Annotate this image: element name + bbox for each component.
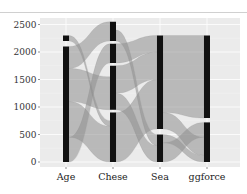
y-tick-label: 500 [19,130,36,140]
x-axis: AgeCheseSeaggforce [56,167,226,182]
x-category-label: Age [56,171,76,182]
y-tick-label: 1000 [14,102,37,112]
stratum-box [110,113,116,163]
stratum-box [204,122,210,162]
alluvium-flows [69,22,204,162]
y-tick-label: 2000 [14,47,37,57]
stratum-box [157,36,163,130]
stratum-box [110,66,116,110]
stratum-box [110,22,116,41]
x-category-label: ggforce [189,171,226,182]
y-tick-label: 0 [31,157,37,167]
y-axis: 05001000150020002500 [14,20,40,168]
y-tick-label: 1500 [14,75,37,85]
x-category-label: Chese [98,171,128,182]
stratum-box [157,135,163,163]
stratum-box [63,47,69,163]
flow-band [163,36,204,119]
stratum-box [63,36,69,42]
x-category-label: Sea [151,171,169,182]
alluvial-chart: 05001000150020002500 AgeCheseSeaggforce [0,0,247,194]
y-tick-label: 2500 [14,20,37,30]
stratum-box [110,44,116,63]
stratum-box [204,36,210,119]
